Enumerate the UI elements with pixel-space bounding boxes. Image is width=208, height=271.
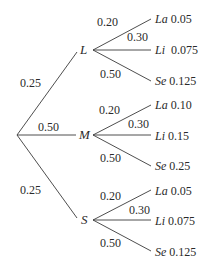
prob-L-Li: 0.30 <box>127 31 148 43</box>
node-L: L <box>80 44 87 56</box>
leaf-L-Li: Li 0.075 <box>155 44 198 56</box>
prob-M-La: 0.20 <box>99 104 120 116</box>
prob-S-Se: 0.50 <box>100 237 121 249</box>
prob-M-Se: 0.50 <box>100 152 121 164</box>
leaf-M-Li: Li 0.15 <box>155 130 189 142</box>
prob-L-La: 0.20 <box>97 16 118 28</box>
prob-S: 0.25 <box>20 184 41 196</box>
prob-M: 0.50 <box>38 121 59 133</box>
node-M: M <box>79 129 90 141</box>
leaf-S-La: La 0.05 <box>155 185 192 197</box>
prob-M-Li: 0.30 <box>128 118 149 130</box>
leaf-M-Se: Se 0.25 <box>155 160 190 172</box>
prob-L: 0.25 <box>20 77 41 89</box>
prob-L-Se: 0.50 <box>100 68 121 80</box>
prob-S-La: 0.20 <box>100 190 121 202</box>
edge-root-S <box>17 135 77 218</box>
prob-S-Li: 0.30 <box>129 204 150 216</box>
node-S: S <box>81 214 88 226</box>
leaf-S-Li: Li 0.075 <box>155 215 195 227</box>
leaf-S-Se: Se 0.125 <box>155 246 196 258</box>
leaf-L-Se: Se 0.125 <box>155 75 196 87</box>
leaf-L-La: La 0.05 <box>155 13 192 25</box>
leaf-M-La: La 0.10 <box>155 99 192 111</box>
